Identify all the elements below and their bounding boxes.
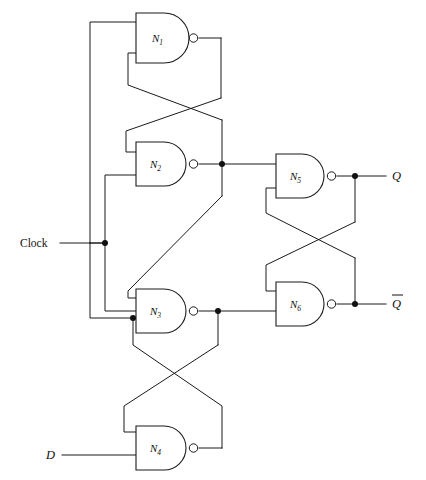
wire-n2-to-n3 [128, 196, 222, 298]
gate-n5[interactable]: N5 [276, 154, 336, 198]
label-qbar-output-group: Q [392, 295, 403, 311]
gate-n6[interactable]: N6 [276, 282, 336, 326]
gate-n5-bubble [327, 172, 335, 180]
wire-clock-to-n3-lower [90, 243, 136, 318]
wire-layer [60, 22, 386, 455]
junction-q-tap [352, 173, 358, 179]
gate-n2[interactable]: N2 [136, 142, 198, 186]
gate-n2-bubble [189, 160, 197, 168]
schematic-canvas: N1 N2 N3 N4 N5 N6 [0, 0, 426, 480]
gate-n4[interactable]: N4 [136, 426, 198, 470]
gate-n1-bubble [189, 34, 197, 42]
wire-clock-to-n2 [105, 175, 136, 243]
wire-clock-bus-down [105, 243, 136, 311]
gate-n3-bubble [189, 307, 197, 315]
junction-qbar-tap [352, 301, 358, 307]
gate-n4-bubble [189, 444, 197, 452]
wire-n3-to-n4-cross [124, 345, 218, 432]
junction-n3-lower-input-tap [130, 315, 136, 321]
gate-n6-bubble [327, 300, 335, 308]
circuit-diagram: N1 N2 N3 N4 N5 N6 [0, 0, 426, 480]
wire-clock-to-n1 [90, 22, 136, 243]
label-d-input: D [45, 448, 55, 462]
junction-n3-output-tap [215, 308, 221, 314]
label-clock: Clock [20, 237, 48, 249]
gate-n3[interactable]: N3 [136, 289, 198, 333]
label-q-output: Q [392, 169, 401, 183]
label-layer: Clock D Q Q [20, 169, 403, 462]
gate-n1[interactable]: N1 [136, 13, 198, 63]
label-qbar-output: Q [392, 297, 401, 311]
junction-clock-tap [102, 240, 108, 246]
junction-n2-output-tap [219, 161, 225, 167]
wire-n5-to-n6-cross [266, 222, 355, 291]
